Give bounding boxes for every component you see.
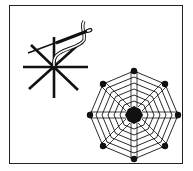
stitch-illustration <box>0 0 193 171</box>
spider-web-icon <box>87 68 181 162</box>
